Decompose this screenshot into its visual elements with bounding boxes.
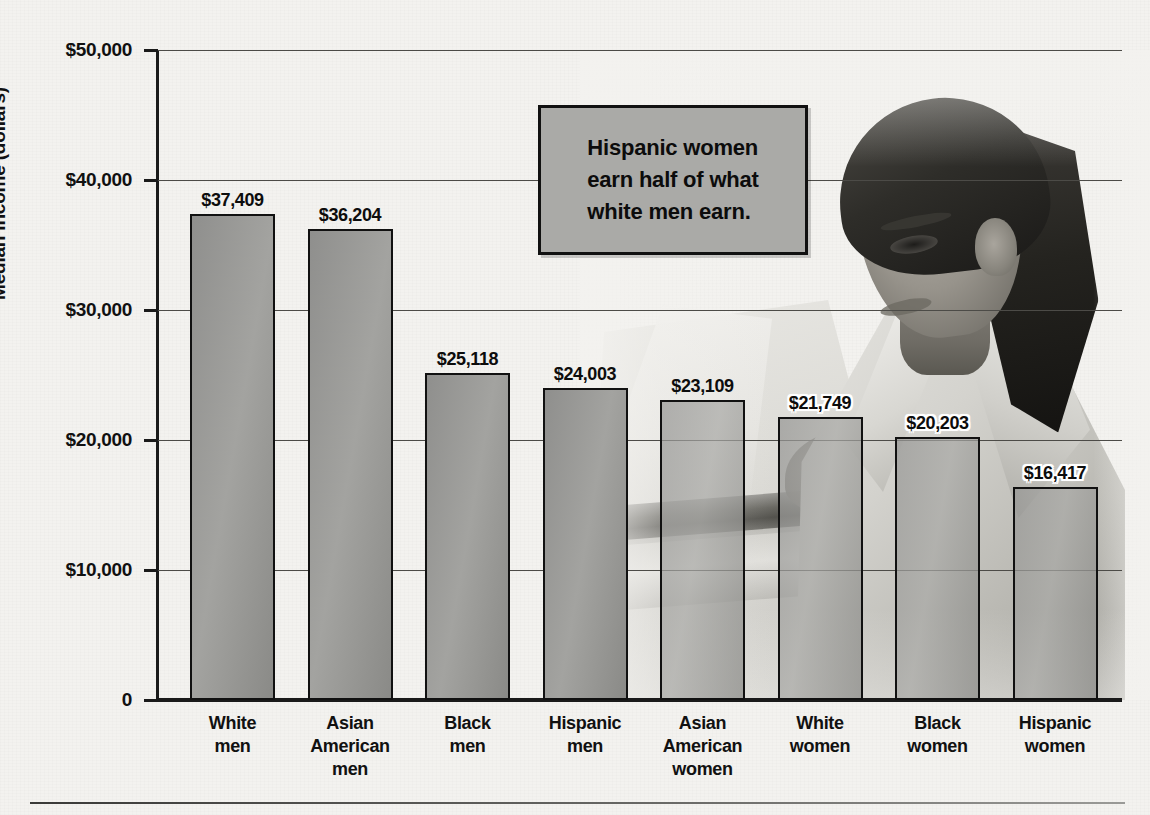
bar-value-label: $24,003 (554, 364, 616, 385)
bottom-divider (30, 802, 1125, 804)
bar-value-label: $21,749 (789, 393, 851, 414)
bar: $16,417 (1013, 487, 1098, 700)
y-axis-tick-label: 0 (122, 689, 132, 711)
bar: $37,409 (190, 214, 275, 700)
callout-line: Hispanic women (587, 132, 758, 164)
y-axis-tick (144, 179, 158, 182)
y-axis-line (156, 50, 159, 700)
callout-line: earn half of what (587, 164, 758, 196)
figure-canvas: Median income (dollars) $50,000$40,000$3… (0, 0, 1150, 815)
y-axis-tick-label: $20,000 (65, 429, 132, 451)
bar: $36,204 (308, 229, 393, 700)
bar-value-label: $36,204 (319, 205, 381, 226)
bar: $24,003 (543, 388, 628, 700)
callout-box: Hispanic womenearn half of whatwhite men… (538, 105, 808, 255)
bar-value-label: $20,203 (906, 413, 968, 434)
bar: $23,109 (660, 400, 745, 700)
callout-line: white men earn. (587, 196, 758, 228)
bar: $25,118 (425, 373, 510, 700)
bar: $20,203 (895, 437, 980, 700)
bar-value-label: $16,417 (1024, 463, 1086, 484)
bar: $21,749 (778, 417, 863, 700)
bar-value-label: $25,118 (437, 349, 498, 370)
y-axis-tick (144, 699, 158, 702)
y-axis-tick-label: $10,000 (65, 559, 132, 581)
gridline (158, 50, 1122, 51)
gridline (158, 310, 1122, 311)
y-axis-tick (144, 569, 158, 572)
x-axis-label-line: women (980, 735, 1130, 758)
bar-value-label: $37,409 (201, 190, 263, 211)
bar-value-label: $23,109 (671, 376, 733, 397)
x-axis-label-line: women (628, 758, 778, 781)
x-axis-category-label: Hispanicwomen (980, 712, 1130, 758)
y-axis-tick-label: $50,000 (65, 39, 132, 61)
x-axis-label-line: Hispanic (980, 712, 1130, 735)
y-axis-tick (144, 439, 158, 442)
y-axis-tick-labels: $50,000$40,000$30,000$20,000$10,0000 (0, 0, 150, 815)
y-axis-tick-label: $30,000 (65, 299, 132, 321)
y-axis-tick (144, 309, 158, 312)
callout-text: Hispanic womenearn half of whatwhite men… (587, 132, 758, 228)
y-axis-tick (144, 49, 158, 52)
y-axis-tick-label: $40,000 (65, 169, 132, 191)
x-axis-label-line: men (275, 758, 425, 781)
